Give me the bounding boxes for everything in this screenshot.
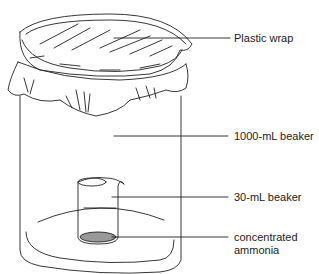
plastic-wrap bbox=[8, 14, 230, 116]
label-ammonia-line1: concentrated bbox=[234, 231, 298, 244]
label-30ml-beaker: 30-mL beaker bbox=[234, 191, 301, 204]
label-ammonia-line2: ammonia bbox=[234, 244, 298, 257]
label-concentrated-ammonia: concentrated ammonia bbox=[234, 231, 298, 257]
large-beaker bbox=[20, 96, 181, 273]
small-beaker bbox=[78, 178, 124, 245]
ammonia-liquid bbox=[80, 232, 116, 242]
label-plastic-wrap: Plastic wrap bbox=[234, 32, 293, 45]
leader-lines bbox=[112, 136, 228, 237]
label-1000ml-beaker: 1000-mL beaker bbox=[234, 130, 314, 143]
